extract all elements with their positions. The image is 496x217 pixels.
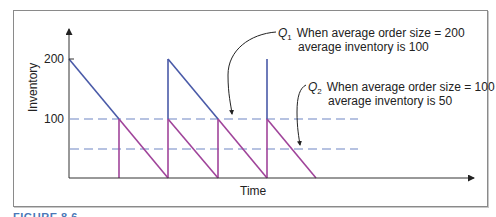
q1-line1: When average order size = 200 <box>297 26 465 40</box>
y-tick-100: 100 <box>44 112 64 126</box>
series-q1 <box>69 59 267 119</box>
y-axis-label: Inventory <box>26 63 40 112</box>
q1-symbol: Q <box>278 26 287 40</box>
q1-pointer-arrow <box>228 32 276 114</box>
q2-symbol: Q <box>308 80 317 94</box>
x-axis-label: Time <box>240 184 267 198</box>
y-tick-200: 200 <box>44 52 64 66</box>
q2-line1: When average order size = 100 <box>327 80 495 94</box>
inventory-chart: 200 100 Inventory Time Q1When average or… <box>0 0 496 217</box>
q2-line2: average inventory is 50 <box>328 94 452 108</box>
q1-subscript: 1 <box>287 33 292 42</box>
q2-pointer-arrow <box>297 85 306 145</box>
q1-line2: average inventory is 100 <box>298 40 429 54</box>
q2-subscript: 2 <box>317 87 322 96</box>
figure-caption: FIGURE 8.6 <box>13 209 78 217</box>
